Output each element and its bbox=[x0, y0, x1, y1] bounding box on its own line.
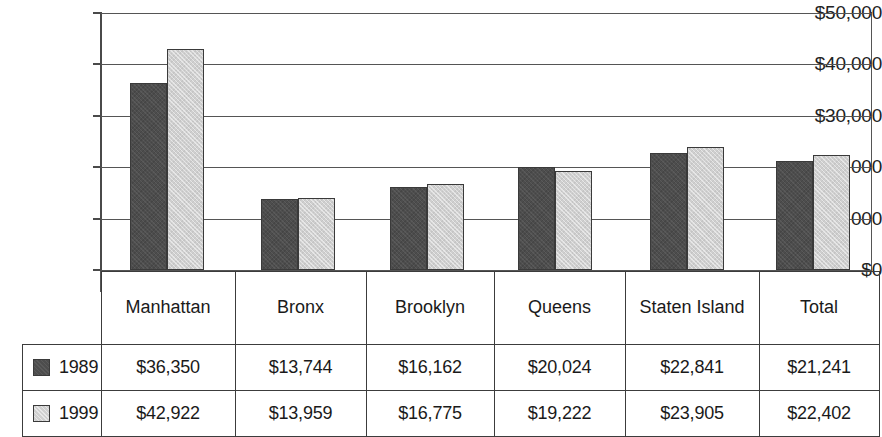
bar-1989-total bbox=[776, 161, 813, 270]
table-row-1999: 1999$42,922$13,959$16,775$19,222$23,905$… bbox=[23, 391, 880, 437]
table-header-row: ManhattanBronxBrooklynQueensStaten Islan… bbox=[23, 272, 880, 345]
table-header-brooklyn: Brooklyn bbox=[366, 272, 494, 345]
bar-1999-staten-island bbox=[687, 147, 724, 270]
plot-right-border bbox=[871, 12, 872, 271]
bar-1989-queens bbox=[518, 167, 555, 270]
bar-1989-brooklyn bbox=[390, 187, 427, 270]
bar-1989-manhattan bbox=[130, 83, 167, 270]
gridline bbox=[101, 64, 872, 65]
cell-1989-bronx: $13,744 bbox=[235, 345, 366, 391]
legend-label-1999: 1999 bbox=[59, 403, 98, 424]
gridline bbox=[101, 167, 872, 168]
legend-swatch-1989-icon bbox=[33, 359, 50, 376]
y-tick-mark bbox=[93, 115, 101, 117]
cell-1989-total: $21,241 bbox=[759, 345, 879, 391]
gridline bbox=[101, 219, 872, 220]
cell-1999-manhattan: $42,922 bbox=[101, 391, 235, 437]
table-header-total: Total bbox=[759, 272, 879, 345]
plot-area: $50,000$40,000$30,000$20,000$10,000$0 bbox=[0, 0, 882, 290]
legend-header-blank bbox=[23, 272, 102, 345]
legend-item-1999: 1999 bbox=[23, 391, 102, 437]
legend-item-1989: 1989 bbox=[23, 345, 102, 391]
data-table: ManhattanBronxBrooklynQueensStaten Islan… bbox=[22, 271, 880, 437]
table-header-queens: Queens bbox=[494, 272, 625, 345]
cell-1999-bronx: $13,959 bbox=[235, 391, 366, 437]
y-tick-mark bbox=[93, 63, 101, 65]
cell-1989-staten-island: $22,841 bbox=[625, 345, 759, 391]
bar-1999-manhattan bbox=[167, 49, 204, 270]
cell-1989-manhattan: $36,350 bbox=[101, 345, 235, 391]
gridline bbox=[101, 116, 872, 117]
bar-1989-staten-island bbox=[650, 153, 687, 270]
legend-swatch-1999-icon bbox=[33, 405, 50, 422]
cell-1989-queens: $20,024 bbox=[494, 345, 625, 391]
gridline bbox=[101, 13, 872, 14]
table-header-manhattan: Manhattan bbox=[101, 272, 235, 345]
table-row-1989: 1989$36,350$13,744$16,162$20,024$22,841$… bbox=[23, 345, 880, 391]
bar-1989-bronx bbox=[261, 199, 298, 270]
cell-1999-queens: $19,222 bbox=[494, 391, 625, 437]
table-header-staten-island: Staten Island bbox=[625, 272, 759, 345]
bar-1999-brooklyn bbox=[427, 184, 464, 270]
cell-1999-brooklyn: $16,775 bbox=[366, 391, 494, 437]
cell-1989-brooklyn: $16,162 bbox=[366, 345, 494, 391]
y-axis-line bbox=[100, 12, 102, 271]
cell-1999-total: $22,402 bbox=[759, 391, 879, 437]
y-tick-mark bbox=[93, 166, 101, 168]
chart-figure: $50,000$40,000$30,000$20,000$10,000$0 Ma… bbox=[0, 0, 882, 437]
legend-label-1989: 1989 bbox=[59, 357, 98, 378]
bar-1999-total bbox=[813, 155, 850, 270]
bar-1999-bronx bbox=[298, 198, 335, 270]
y-tick-mark bbox=[93, 12, 101, 14]
bar-1999-queens bbox=[555, 171, 592, 270]
y-tick-mark bbox=[93, 218, 101, 220]
cell-1999-staten-island: $23,905 bbox=[625, 391, 759, 437]
table-header-bronx: Bronx bbox=[235, 272, 366, 345]
